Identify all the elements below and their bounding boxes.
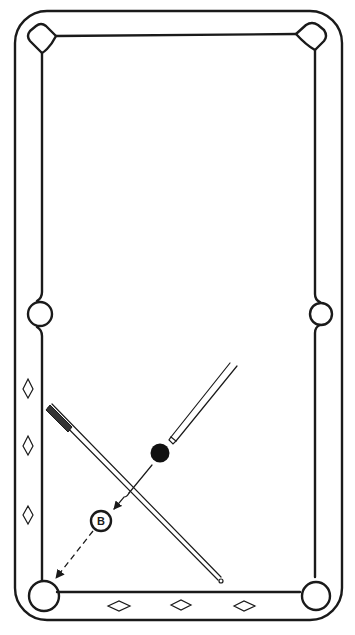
diamond-left-3 <box>23 506 33 524</box>
b-to-pocket-path <box>56 531 93 578</box>
diamond-bottom-3 <box>234 601 255 611</box>
ghost-ball-label: B <box>97 515 105 527</box>
pocket-top-left <box>28 24 56 53</box>
pocket-left-side <box>28 302 52 326</box>
long-cue-butt <box>46 405 72 432</box>
outer-rail <box>15 11 342 620</box>
diamond-left-1 <box>23 379 33 398</box>
pocket-bottom-right <box>302 582 330 610</box>
diamond-bottom-1 <box>108 601 130 611</box>
pockets <box>28 23 332 611</box>
aiming-cue-tip <box>169 437 176 444</box>
long-cue-tip <box>219 579 223 583</box>
cushion <box>37 34 320 592</box>
pocket-bottom-left <box>29 581 59 611</box>
object-ball <box>151 444 170 463</box>
aiming-cue <box>169 363 237 444</box>
pocket-top-right <box>296 23 326 50</box>
billiards-diagram: B <box>0 0 355 635</box>
pocket-right-side <box>310 303 332 325</box>
ghost-ball-B: B <box>91 511 111 531</box>
diamond-left-2 <box>23 436 33 455</box>
diamond-bottom-2 <box>171 600 191 610</box>
